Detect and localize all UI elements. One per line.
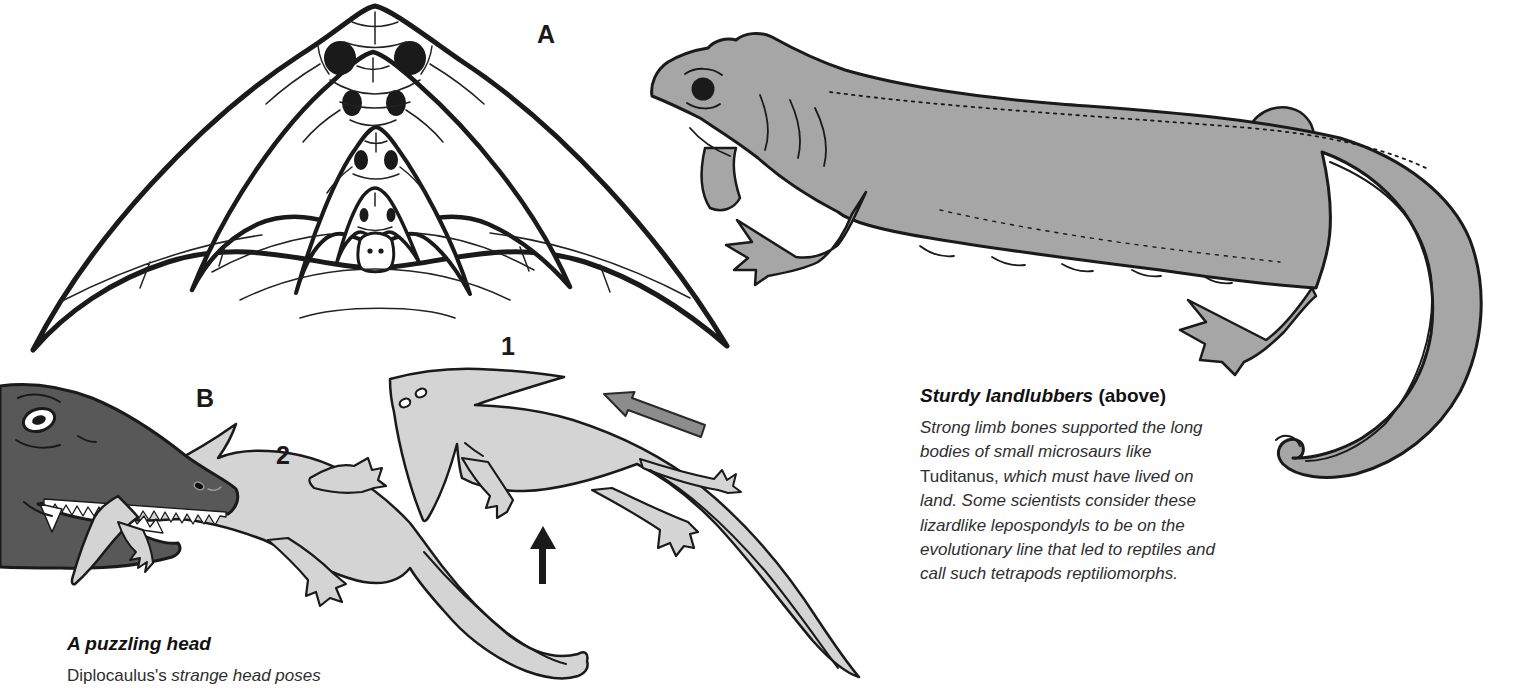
caption-segment: Tuditanus, <box>920 467 999 486</box>
caption-segment: lizardlike lepospondyls to be on the <box>920 516 1185 535</box>
label-predator-scene: B <box>196 386 214 411</box>
caption-body: Diplocaulus's strange head poses <box>67 664 407 688</box>
tuditanus-far-front-leg <box>702 148 740 210</box>
label-skull-diagram: A <box>537 22 555 47</box>
caption-line: lizardlike lepospondyls to be on the <box>920 514 1260 538</box>
caption-line: Diplocaulus's strange head poses <box>67 664 407 688</box>
caption-line: call such tetrapods reptiliomorphs. <box>920 562 1260 586</box>
caption-segment: evolutionary line that led to reptiles a… <box>920 540 1215 559</box>
caption-title: A puzzling head <box>67 633 407 655</box>
tuditanus-hind-leg <box>1180 288 1316 375</box>
caption-segment: Diplocaulus's <box>67 666 167 685</box>
label-swim-pose-2: 2 <box>276 443 290 468</box>
caption-segment: call such tetrapods reptiliomorphs. <box>920 564 1178 583</box>
caption-sturdy-landlubbers: Sturdy landlubbers (above) Strong limb b… <box>920 385 1260 587</box>
caption-segment: Strong limb bones supported the long <box>920 418 1203 437</box>
illustration-canvas <box>0 0 1517 695</box>
caption-title-text: A puzzling head <box>67 633 211 654</box>
caption-line: Strong limb bones supported the long <box>920 416 1260 440</box>
caption-title-text: Sturdy landlubbers <box>920 385 1093 406</box>
flow-arrow-icon <box>604 392 705 437</box>
diplocaulus-1-hind-leg <box>592 488 698 556</box>
book-page: A B 1 2 Sturdy landlubbers (above) Stron… <box>0 0 1517 695</box>
caption-segment: strange head poses <box>167 666 321 685</box>
lift-arrow-icon <box>530 526 556 584</box>
caption-segment: which must have lived on <box>999 467 1194 486</box>
caption-puzzling-head: A puzzling head Diplocaulus's strange he… <box>67 633 407 688</box>
skull-snout-plate <box>358 233 394 272</box>
caption-title-note: (above) <box>1093 385 1166 406</box>
label-swim-pose-1: 1 <box>501 334 515 359</box>
caption-title: Sturdy landlubbers (above) <box>920 385 1260 407</box>
caption-segment: bodies of small microsaurs like <box>920 442 1151 461</box>
caption-body: Strong limb bones supported the longbodi… <box>920 416 1260 587</box>
caption-segment: land. Some scientists consider these <box>920 491 1196 510</box>
caption-line: bodies of small microsaurs like <box>920 440 1260 464</box>
caption-line: Tuditanus, which must have lived on <box>920 465 1260 489</box>
caption-line: evolutionary line that led to reptiles a… <box>920 538 1260 562</box>
caption-line: land. Some scientists consider these <box>920 489 1260 513</box>
skull-growth-diagram <box>33 6 727 350</box>
